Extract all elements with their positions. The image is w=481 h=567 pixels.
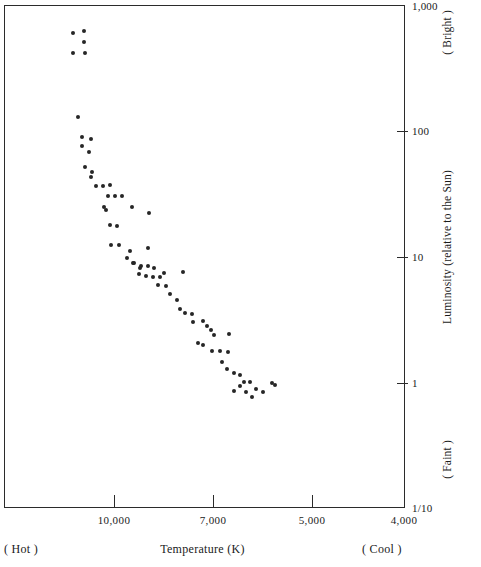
x-axis-cool-label: ( Cool ) — [362, 542, 402, 557]
y-axis-tick-label: 10 — [412, 252, 423, 263]
y-axis-tick-mark — [397, 131, 408, 132]
y-axis-title: Luminosity (relative to the Sun) — [441, 170, 453, 324]
x-axis-title: Temperature (K) — [0, 542, 405, 557]
y-axis-faint-label: ( Faint ) — [441, 440, 453, 479]
x-axis-tick-label: 4,000 — [391, 515, 418, 526]
y-axis-tick-mark — [397, 383, 408, 384]
y-axis-tick-label: 1 — [412, 378, 418, 389]
x-axis-tick-mark — [114, 495, 115, 507]
x-axis-tick-mark — [312, 495, 313, 507]
hr-diagram-chart: 1,0001001011/10 10,0007,0005,0004,000 ( … — [0, 0, 481, 567]
y-axis-tick-label: 1,000 — [412, 1, 438, 12]
x-axis-tick-label: 7,000 — [200, 515, 227, 526]
y-axis-bright-label: ( Bright ) — [441, 10, 453, 55]
y-axis-tick-label: 1/10 — [412, 503, 432, 514]
y-axis-tick-mark — [397, 257, 408, 258]
x-axis-tick-label: 5,000 — [299, 515, 326, 526]
x-axis-tick-label: 10,000 — [98, 515, 131, 526]
plot-frame — [4, 5, 405, 508]
y-axis-tick-label: 100 — [412, 126, 429, 137]
x-axis-tick-mark — [213, 495, 214, 507]
